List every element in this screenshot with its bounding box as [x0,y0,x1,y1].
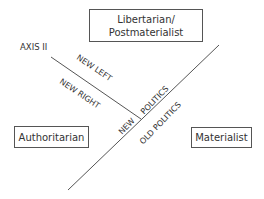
materialist-box: Materialist [191,127,252,148]
box-label-line1: Libertarian/ [109,13,184,26]
materialist-label: Materialist [195,131,248,144]
box-label-line2: Postmaterialist [109,26,184,39]
axis-ii-label: AXIS II [20,42,47,52]
authoritarian-box: Authoritarian [14,126,89,148]
libertarian-postmaterialist-box: Libertarian/ Postmaterialist [89,9,203,42]
authoritarian-label: Authoritarian [19,131,85,144]
